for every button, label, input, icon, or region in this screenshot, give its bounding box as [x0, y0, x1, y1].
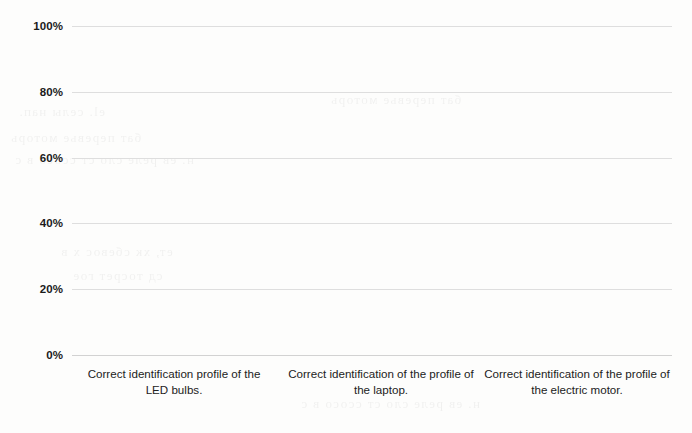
y-axis-tick-20: 20% — [0, 283, 63, 295]
gridline-80 — [72, 92, 672, 93]
gridline-baseline-0 — [72, 355, 672, 356]
y-axis-tick-60: 60% — [0, 152, 63, 164]
y-axis-tick-80: 80% — [0, 86, 63, 98]
plot-area: 100% 98% 84% — [72, 26, 672, 355]
y-axis-tick-100: 100% — [0, 20, 63, 32]
y-axis-tick-40: 40% — [0, 217, 63, 229]
gridline-20 — [72, 289, 672, 290]
gridline-100 — [72, 26, 672, 27]
x-axis-label-electric-motor: Correct identification of the profile of… — [484, 366, 670, 399]
chart-container: el. селы нап. бат перевье моторь н. ев р… — [0, 0, 692, 433]
gridline-60 — [72, 158, 672, 159]
x-axis-label-laptop: Correct identification of the profile of… — [288, 366, 474, 399]
gridline-40 — [72, 223, 672, 224]
y-axis-tick-0: 0% — [0, 349, 63, 361]
x-axis-label-led-bulbs: Correct identification profile of the LE… — [81, 366, 267, 399]
